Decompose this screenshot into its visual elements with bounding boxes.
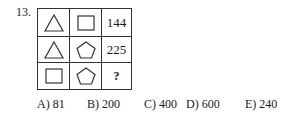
cell-r1-c2 <box>70 9 102 37</box>
answer-option-d[interactable]: D) 600 <box>186 97 220 112</box>
grid-row-1: 144 <box>38 9 132 37</box>
square-icon <box>44 67 64 85</box>
pentagon-icon <box>75 66 97 86</box>
cell-r2-c3: 225 <box>102 37 132 63</box>
answer-option-c[interactable]: C) 400 <box>144 97 177 112</box>
puzzle-grid: 144 225 ? <box>37 8 132 90</box>
cell-r3-c2 <box>70 63 102 90</box>
cell-r2-c1 <box>38 37 70 63</box>
answer-option-e[interactable]: E) 240 <box>245 97 277 112</box>
grid-row-3: ? <box>38 63 132 90</box>
question-number: 13. <box>16 5 31 20</box>
triangle-icon <box>43 40 65 60</box>
cell-r2-c2 <box>70 37 102 63</box>
cell-r1-c1 <box>38 9 70 37</box>
cell-r3-c3-unknown: ? <box>102 63 132 90</box>
grid-row-2: 225 <box>38 37 132 63</box>
answer-option-a[interactable]: A) 81 <box>37 97 65 112</box>
pentagon-icon <box>75 40 97 60</box>
square-icon <box>76 14 96 32</box>
answer-option-b[interactable]: B) 200 <box>87 97 120 112</box>
triangle-icon <box>43 13 65 33</box>
cell-r1-c3: 144 <box>102 9 132 37</box>
cell-r3-c1 <box>38 63 70 90</box>
